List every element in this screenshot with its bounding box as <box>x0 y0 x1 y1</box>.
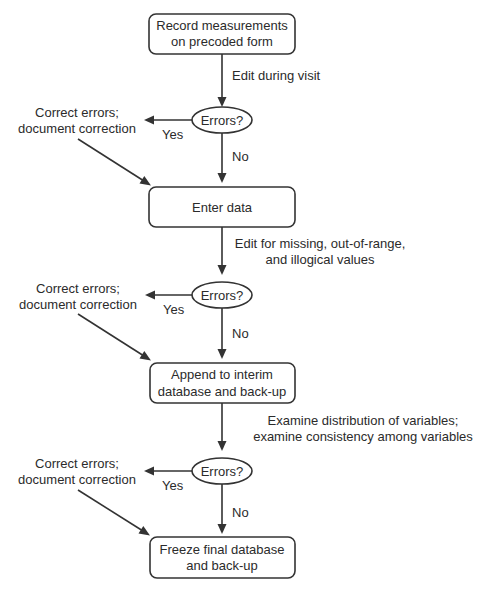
step-text-line: Enter data <box>192 200 253 215</box>
step-append: Append to interim database and back-up <box>150 363 295 403</box>
correction-text-line: document correction <box>18 121 136 136</box>
step-text-line: on precoded form <box>171 34 273 49</box>
yes-label: Yes <box>162 127 184 142</box>
check-2: Edit for missing, out-of-range, and illo… <box>19 227 405 361</box>
correction-text-line: Correct errors; <box>36 281 120 296</box>
step-text-line: Record measurements <box>156 18 288 33</box>
step-record: Record measurements on precoded form <box>149 14 295 54</box>
arrowhead-left <box>144 467 154 476</box>
check-3: Examine distribution of variables; exami… <box>18 403 473 536</box>
edit-label: examine consistency among variables <box>253 429 473 444</box>
return-connector <box>78 139 144 181</box>
yes-label: Yes <box>163 302 185 317</box>
step-enter-data: Enter data <box>149 187 295 227</box>
arrowhead-down <box>218 265 227 275</box>
edit-label: Edit during visit <box>232 68 321 83</box>
no-label: No <box>232 149 249 164</box>
arrowhead-diagonal <box>139 526 151 536</box>
edit-label: Examine distribution of variables; <box>268 413 459 428</box>
arrowhead-left <box>145 291 155 300</box>
return-connector <box>78 314 144 356</box>
decision-label: Errors? <box>201 288 244 303</box>
edit-label: Edit for missing, out-of-range, <box>235 236 406 251</box>
arrowhead-down <box>218 173 227 183</box>
step-text-line: and back-up <box>186 558 258 573</box>
no-label: No <box>232 505 249 520</box>
step-freeze: Freeze final database and back-up <box>150 537 295 578</box>
decision-label: Errors? <box>201 113 244 128</box>
correction-text-line: document correction <box>19 297 137 312</box>
arrowhead-down <box>218 441 227 451</box>
correction-text-line: document correction <box>18 472 136 487</box>
arrowhead-left <box>144 116 154 125</box>
check-1: Edit during visit Errors? Yes Correct er… <box>18 54 320 186</box>
arrowhead-diagonal <box>140 351 152 361</box>
yes-label: Yes <box>162 478 184 493</box>
correction-text-line: Correct errors; <box>35 456 119 471</box>
arrowhead-down <box>218 524 227 534</box>
arrowhead-down <box>218 97 227 107</box>
edit-label: and illogical values <box>265 252 375 267</box>
decision-label: Errors? <box>201 464 244 479</box>
no-label: No <box>232 326 249 341</box>
step-text-line: Freeze final database <box>159 542 284 557</box>
correction-text-line: Correct errors; <box>35 105 119 120</box>
step-text-line: database and back-up <box>158 384 287 399</box>
return-connector <box>78 490 143 531</box>
step-text-line: Append to interim <box>171 367 273 382</box>
arrowhead-down <box>218 349 227 359</box>
flowchart: Record measurements on precoded form Ent… <box>0 0 489 591</box>
arrowhead-diagonal <box>140 176 152 186</box>
